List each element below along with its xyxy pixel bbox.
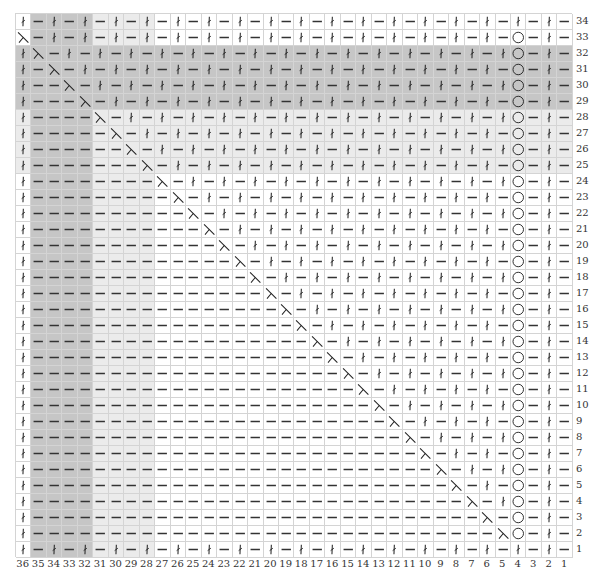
chart-cell (418, 398, 433, 414)
chart-row-1 (16, 542, 572, 558)
chart-cell (480, 94, 495, 110)
chart-cell (16, 446, 31, 462)
chart-cell (434, 110, 449, 126)
chart-cell (542, 110, 557, 126)
chart-cell (62, 126, 77, 142)
chart-cell (31, 238, 46, 254)
chart-cell (356, 222, 371, 238)
chart-cell (480, 238, 495, 254)
chart-cell (155, 398, 170, 414)
chart-cell (449, 430, 464, 446)
chart-cell (403, 494, 418, 510)
chart-cell (542, 398, 557, 414)
chart-cell (526, 110, 541, 126)
chart-cell (140, 414, 155, 430)
chart-cell (171, 494, 186, 510)
chart-cell (62, 510, 77, 526)
column-number: 3 (525, 558, 540, 569)
chart-cell (171, 366, 186, 382)
chart-cell (93, 462, 108, 478)
chart-cell (480, 414, 495, 430)
row-number: 17 (576, 285, 596, 301)
chart-cell (325, 382, 340, 398)
chart-cell (372, 238, 387, 254)
chart-cell (310, 270, 325, 286)
chart-cell (557, 510, 572, 526)
chart-cell (372, 94, 387, 110)
chart-cell (202, 78, 217, 94)
chart-cell (248, 126, 263, 142)
chart-cell (124, 398, 139, 414)
chart-cell (171, 302, 186, 318)
chart-row-20 (16, 238, 572, 254)
chart-cell (434, 14, 449, 30)
chart-cell (294, 318, 309, 334)
chart-cell (93, 526, 108, 542)
chart-cell (186, 46, 201, 62)
chart-cell (542, 62, 557, 78)
chart-cell (171, 478, 186, 494)
chart-cell (356, 190, 371, 206)
chart-cell (496, 254, 511, 270)
chart-cell (449, 94, 464, 110)
chart-cell (449, 542, 464, 558)
chart-cell (310, 526, 325, 542)
chart-cell (372, 142, 387, 158)
chart-cell (403, 30, 418, 46)
chart-cell (557, 62, 572, 78)
chart-cell (124, 158, 139, 174)
chart-cell (465, 398, 480, 414)
chart-cell (279, 238, 294, 254)
chart-cell (403, 270, 418, 286)
chart-cell (325, 78, 340, 94)
chart-cell (78, 510, 93, 526)
chart-cell (418, 318, 433, 334)
chart-cell (387, 446, 402, 462)
chart-cell (325, 430, 340, 446)
chart-cell (140, 222, 155, 238)
chart-cell (356, 526, 371, 542)
chart-cell (310, 126, 325, 142)
chart-cell (403, 62, 418, 78)
chart-cell (449, 142, 464, 158)
chart-cell (124, 494, 139, 510)
chart-cell (542, 542, 557, 558)
row-number: 33 (576, 29, 596, 45)
chart-cell (78, 302, 93, 318)
chart-cell (434, 158, 449, 174)
chart-cell (511, 478, 526, 494)
chart-cell (294, 462, 309, 478)
chart-cell (310, 158, 325, 174)
chart-cell (186, 238, 201, 254)
chart-cell (124, 302, 139, 318)
chart-row-29 (16, 94, 572, 110)
chart-cell (387, 526, 402, 542)
chart-cell (78, 398, 93, 414)
chart-cell (124, 462, 139, 478)
chart-cell (387, 382, 402, 398)
chart-cell (217, 398, 232, 414)
chart-cell (264, 110, 279, 126)
chart-cell (124, 430, 139, 446)
chart-cell (47, 270, 62, 286)
chart-cell (310, 302, 325, 318)
chart-cell (449, 510, 464, 526)
chart-cell (418, 254, 433, 270)
chart-cell (140, 190, 155, 206)
chart-cell (155, 334, 170, 350)
chart-cell (557, 158, 572, 174)
chart-cell (93, 14, 108, 30)
chart-cell (526, 254, 541, 270)
chart-cell (403, 510, 418, 526)
chart-cell (496, 430, 511, 446)
chart-cell (31, 494, 46, 510)
chart-cell (465, 30, 480, 46)
chart-cell (294, 190, 309, 206)
chart-cell (16, 174, 31, 190)
chart-cell (124, 78, 139, 94)
chart-cell (294, 414, 309, 430)
chart-cell (511, 254, 526, 270)
chart-cell (480, 430, 495, 446)
chart-cell (449, 238, 464, 254)
chart-cell (202, 350, 217, 366)
